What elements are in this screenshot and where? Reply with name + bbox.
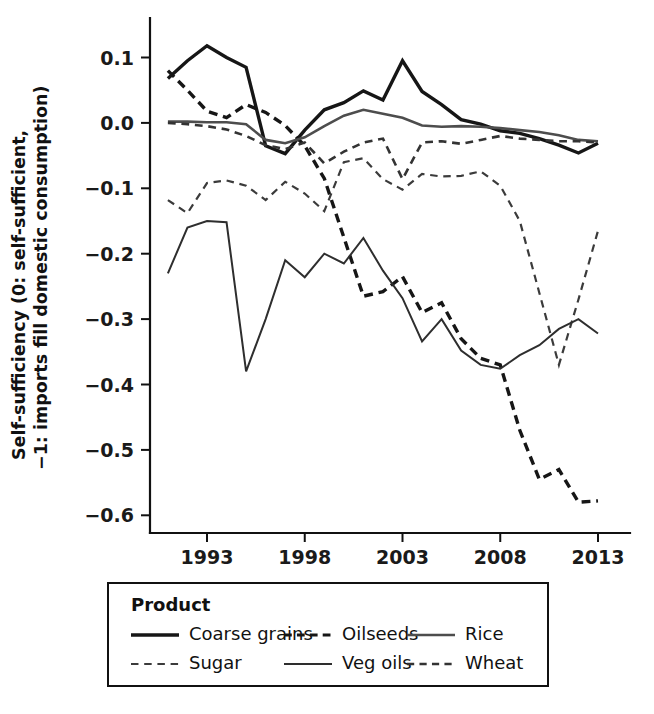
y-axis-ticks: 0.10.0−0.1−0.2−0.3−0.4−0.5−0.6 <box>84 47 150 527</box>
y-axis-label-line2: −1: imports fill domestic consumption) <box>31 85 51 470</box>
y-tick-label: −0.5 <box>84 439 134 461</box>
legend-label: Coarse grains <box>189 623 313 644</box>
series-layer <box>168 46 598 502</box>
legend-label: Rice <box>465 623 503 644</box>
legend-label: Oilseeds <box>342 623 419 644</box>
chart-legend: Product Coarse grainsOilseedsRiceSugarVe… <box>108 583 548 686</box>
y-axis-label: Self-sufficiency (0: self-sufficient, −1… <box>9 85 51 470</box>
y-tick-label: −0.3 <box>84 308 134 330</box>
y-tick-label: −0.6 <box>84 504 134 526</box>
y-tick-label: −0.2 <box>84 243 134 265</box>
x-tick-label: 1993 <box>181 546 234 568</box>
x-axis-ticks: 19931998200320082013 <box>181 533 625 568</box>
y-tick-label: 0.1 <box>100 47 134 69</box>
y-tick-label: −0.4 <box>84 374 134 396</box>
self-sufficiency-line-chart: Self-sufficiency (0: self-sufficient, −1… <box>0 0 654 714</box>
legend-title: Product <box>131 594 211 615</box>
legend-label: Veg oils <box>342 652 412 673</box>
x-tick-label: 2003 <box>376 546 429 568</box>
series-line-veg-oils <box>168 221 598 371</box>
y-tick-label: −0.1 <box>84 177 134 199</box>
axes <box>150 18 630 533</box>
chart-figure: Self-sufficiency (0: self-sufficient, −1… <box>0 0 654 714</box>
x-tick-label: 2008 <box>474 546 527 568</box>
y-tick-label: 0.0 <box>100 112 134 134</box>
legend-label: Wheat <box>465 652 523 673</box>
x-tick-label: 2013 <box>572 546 625 568</box>
x-tick-label: 1998 <box>278 546 331 568</box>
legend-label: Sugar <box>189 652 242 673</box>
y-axis-label-line1: Self-sufficiency (0: self-sufficient, <box>9 130 29 460</box>
